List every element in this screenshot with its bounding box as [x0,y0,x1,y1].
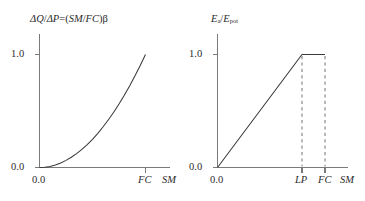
right-chart-plot [180,0,365,201]
right-x-tick-label-fc: FC [318,175,331,186]
right-x-tick-label-lp: LP [295,175,307,186]
left-title-sm: SM [69,13,83,24]
right-x-axis-label-sm: SM [340,175,354,186]
left-title-equals: =( [59,13,68,24]
left-chart-title: ΔQ/ΔP=(SM/FC)β [30,14,108,25]
left-chart-plot [0,0,180,201]
left-title-delta-p: ΔP [47,13,60,24]
left-title-delta-q: ΔQ [30,13,44,24]
right-x-tick-label-0.0: 0.0 [210,175,223,186]
left-x-tick-label-fc: FC [138,175,151,186]
left-y-tick-label-0.0: 0.0 [11,162,24,173]
right-y-tick-label-1.0: 1.0 [189,49,202,60]
right-chart-title: Ea/Epot [211,14,238,25]
left-title-beta: β [103,13,108,24]
left-x-axis-label-sm: SM [162,175,176,186]
right-y-tick-label-0.0: 0.0 [189,162,202,173]
right-title-sub-pot: pot [230,17,238,24]
figure-container: ΔQ/ΔP=(SM/FC)β 1.0 0.0 0.0 FC SM [0,0,365,201]
left-x-tick-label-0.0: 0.0 [32,175,45,186]
left-title-fc: FC [86,13,99,24]
right-curve-ea-epot [218,55,326,168]
chart-panel-left: ΔQ/ΔP=(SM/FC)β 1.0 0.0 0.0 FC SM [0,0,180,201]
chart-panel-right: Ea/Epot 1.0 0.0 0.0 LP FC SM [180,0,365,201]
left-curve-delta-q-delta-p [40,55,146,168]
left-y-tick-label-1.0: 1.0 [11,49,24,60]
